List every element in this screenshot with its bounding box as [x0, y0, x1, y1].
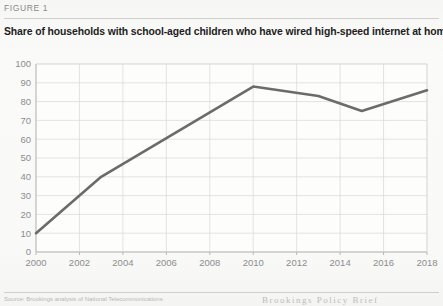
source-note: Source: Brookings analysis of National T…	[4, 296, 163, 302]
y-axis-tick-label: 90	[20, 77, 31, 88]
x-axis-tick-label: 2010	[243, 257, 264, 268]
x-axis-tick-label: 2002	[69, 257, 90, 268]
y-axis-tick-label: 60	[20, 134, 31, 145]
y-axis-tick-label: 0	[26, 246, 31, 257]
x-axis-tick-label: 2006	[156, 257, 177, 268]
x-axis-tick-label: 2014	[330, 257, 351, 268]
x-axis-tick-label: 2000	[25, 257, 46, 268]
x-axis-tick-label: 2004	[112, 257, 133, 268]
footer-divider	[4, 292, 439, 293]
y-axis-tick-label: 30	[20, 190, 31, 201]
y-axis-tick-label: 20	[20, 209, 31, 220]
y-axis-tick-label: 100	[15, 58, 31, 69]
figure-page: FIGURE 1 Share of households with school…	[0, 0, 443, 306]
line-chart: 0102030405060708090100200020022004200620…	[0, 48, 443, 280]
figure-label: FIGURE 1	[4, 3, 48, 13]
y-axis-tick-label: 50	[20, 152, 31, 163]
x-axis-tick-label: 2012	[286, 257, 307, 268]
chart-container: 0102030405060708090100200020022004200620…	[0, 48, 443, 280]
y-axis-tick-label: 40	[20, 171, 31, 182]
header-divider	[4, 18, 439, 19]
y-axis-tick-label: 80	[20, 96, 31, 107]
brand-mark: Brookings Policy Brief	[262, 295, 379, 305]
x-axis-tick-label: 2008	[199, 257, 220, 268]
x-axis-tick-label: 2016	[373, 257, 394, 268]
y-axis-tick-label: 10	[20, 228, 31, 239]
page-title: Share of households with school-aged chi…	[4, 26, 441, 37]
y-axis-tick-label: 70	[20, 115, 31, 126]
x-axis-tick-label: 2018	[416, 257, 437, 268]
